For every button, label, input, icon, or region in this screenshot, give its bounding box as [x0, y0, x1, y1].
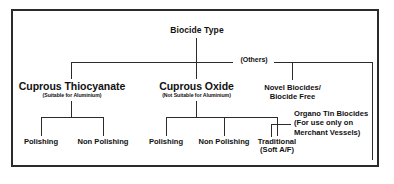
- node-co-non-polishing-label: Non Polishing: [198, 137, 249, 146]
- connector-bus-cuprous-thiocyanate: [41, 117, 104, 118]
- node-cuprous-oxide-subtitle: (Not Suitable for Aluminium): [142, 93, 251, 99]
- connector-others-bus: [274, 62, 373, 63]
- node-co-traditional-sublabel: (Soft A/F): [252, 146, 302, 154]
- connector-drop-cuprous-thiocyanate: [71, 62, 72, 79]
- node-biocide-type: Biocide Type: [152, 26, 242, 35]
- node-co-non-polishing: Non Polishing: [195, 138, 253, 146]
- node-organo-tin-label-line1: Organo Tin Biocides: [294, 109, 374, 118]
- node-novel-biocides-label-line1: Novel Biocides/: [258, 83, 327, 92]
- label-others-text: (Others): [240, 56, 267, 63]
- connector-drop-co-traditional: [277, 117, 278, 136]
- node-co-polishing-label: Polishing: [149, 137, 183, 146]
- connector-drop-ct-polishing: [41, 117, 42, 136]
- node-novel-biocides: Novel Biocides/ Biocide Free: [258, 83, 327, 102]
- node-cuprous-thiocyanate-label: Cuprous Thiocyanate: [16, 81, 128, 92]
- connector-stem-cuprous-thiocyanate: [71, 101, 72, 117]
- connector-drop-co-non-polishing: [224, 117, 225, 136]
- node-novel-biocides-label-line2: Biocide Free: [258, 92, 327, 101]
- connector-organo-bracket-left: [271, 124, 272, 137]
- node-organo-tin-label-line2: (For use only on: [294, 118, 374, 127]
- node-co-polishing: Polishing: [142, 138, 190, 146]
- node-ct-non-polishing: Non Polishing: [74, 138, 132, 146]
- connector-drop-ct-non-polishing: [103, 117, 104, 136]
- node-co-traditional: Traditional (Soft A/F): [252, 138, 302, 154]
- node-ct-polishing: Polishing: [17, 138, 65, 146]
- node-cuprous-oxide: Cuprous Oxide (Not Suitable for Aluminiu…: [142, 81, 251, 99]
- node-cuprous-thiocyanate-subtitle: (Suitable for Aluminium): [16, 93, 128, 99]
- node-organo-tin-label-line3: Merchant Vessels): [294, 128, 374, 137]
- node-cuprous-thiocyanate: Cuprous Thiocyanate (Suitable for Alumin…: [16, 81, 128, 99]
- connector-drop-cuprous-oxide: [196, 62, 197, 79]
- node-ct-non-polishing-label: Non Polishing: [77, 137, 128, 146]
- connector-drop-co-polishing: [166, 117, 167, 136]
- connector-drop-novel-biocides: [292, 62, 293, 80]
- connector-organo-bracket-top: [271, 124, 291, 125]
- node-cuprous-oxide-label: Cuprous Oxide: [142, 81, 251, 92]
- connector-bus-cuprous-oxide: [166, 117, 278, 118]
- node-ct-polishing-label: Polishing: [24, 137, 58, 146]
- node-organo-tin-biocides: Organo Tin Biocides (For use only on Mer…: [294, 109, 374, 137]
- connector-stem-cuprous-oxide: [196, 101, 197, 117]
- node-biocide-type-label: Biocide Type: [170, 25, 223, 35]
- biocide-type-diagram: Biocide Type (Others) Cuprous Thiocyanat…: [0, 0, 394, 184]
- label-others: (Others): [235, 56, 273, 64]
- connector-main-bus: [71, 62, 233, 63]
